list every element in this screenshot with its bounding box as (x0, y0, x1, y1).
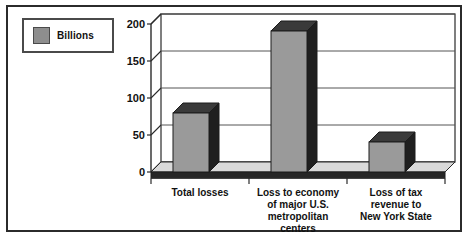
y-tick-label-100: 100 (127, 92, 145, 104)
bar-total-losses[interactable] (173, 103, 219, 172)
y-tick-label-200: 200 (127, 18, 145, 30)
category-label-line: of major U.S. (267, 199, 329, 210)
category-label-loss-to-economy: Loss to economy of major U.S. metropolit… (257, 187, 340, 234)
category-label-line: revenue to (371, 199, 422, 210)
y-tick-label-150: 150 (127, 55, 145, 67)
y-tick-label-50: 50 (133, 129, 145, 141)
floor-front-face (151, 172, 445, 178)
bar-front-face (173, 113, 209, 172)
category-label-loss-of-tax-revenue: Loss of tax revenue to New York State (360, 187, 432, 222)
category-label-line: Loss of tax (370, 187, 423, 198)
category-label-line: New York State (360, 211, 432, 222)
category-label-line: Total losses (171, 187, 228, 198)
chart-figure: Billions (0, 0, 474, 252)
category-label-line: metropolitan (268, 211, 329, 222)
bar-loss-to-economy[interactable] (271, 21, 317, 172)
category-label-total-losses: Total losses (171, 187, 228, 198)
bar-loss-of-tax-revenue[interactable] (369, 132, 415, 172)
x-axis (151, 178, 445, 184)
bar-side-face (209, 103, 219, 172)
y-tick-label-0: 0 (139, 166, 145, 178)
category-label-line: Loss to economy (257, 187, 340, 198)
bar-front-face (271, 31, 307, 172)
category-label-line: centers (280, 223, 316, 234)
x-axis-category-labels: Total losses Loss to economy of major U.… (171, 187, 432, 234)
bar-chart: 200 150 100 50 0 (0, 0, 474, 252)
y-axis: 200 150 100 50 0 (127, 18, 151, 178)
bar-side-face (307, 21, 317, 172)
bar-chart-svg: 200 150 100 50 0 (0, 0, 474, 252)
bar-front-face (369, 142, 405, 172)
